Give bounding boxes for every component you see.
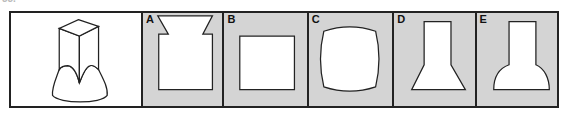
option-b[interactable]: B: [222, 13, 306, 106]
option-d[interactable]: D: [392, 13, 474, 106]
question-frame: A B C D E: [9, 11, 559, 108]
reference-3d-shape: [11, 13, 141, 106]
option-e[interactable]: E: [475, 13, 557, 106]
question-number: 33.: [2, 0, 16, 4]
square-icon: [224, 13, 306, 106]
option-c[interactable]: C: [307, 13, 392, 106]
bell-base-rectangle-icon: [477, 13, 557, 106]
trapezoid-base-rectangle-icon: [394, 13, 474, 106]
reference-figure-panel: [11, 13, 141, 106]
funnel-top-square-icon: [143, 13, 222, 106]
arced-square-icon: [309, 13, 392, 106]
option-a[interactable]: A: [141, 13, 222, 106]
